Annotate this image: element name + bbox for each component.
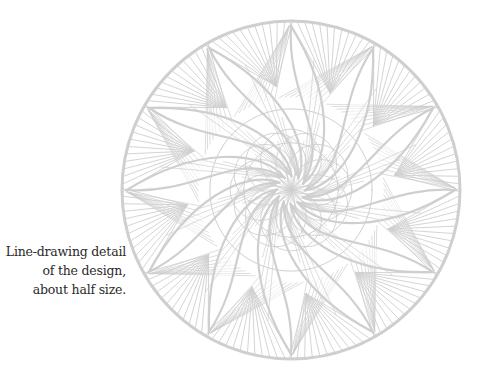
mandala-illustration (0, 0, 487, 388)
mandala-lines (122, 21, 460, 359)
